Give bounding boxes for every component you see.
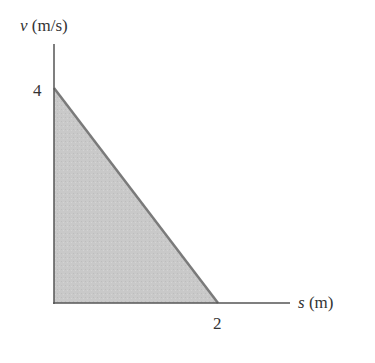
x-tick-label: 2 bbox=[213, 314, 222, 333]
y-tick-label: 4 bbox=[33, 81, 42, 100]
velocity-position-diagram: v (m/s) s (m) 4 2 bbox=[0, 0, 375, 363]
x-axis-label: s (m) bbox=[298, 293, 333, 312]
y-axis-label: v (m/s) bbox=[20, 16, 68, 35]
